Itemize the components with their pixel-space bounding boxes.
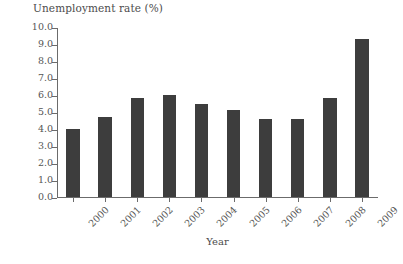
y-axis-tick-label: 8.0 — [38, 55, 53, 66]
x-axis-tick-label: 2006 — [279, 204, 304, 229]
x-axis-tick-group: 2000200120022003200420052006200720082009 — [57, 198, 378, 238]
bar — [227, 110, 240, 197]
y-axis-tick-label: 7.0 — [38, 72, 53, 83]
x-axis-tick-label: 2001 — [118, 204, 143, 229]
x-axis-tick-label: 2005 — [247, 204, 272, 229]
x-axis-tick-mark — [330, 198, 331, 202]
chart-figure: Unemployment rate (%) 0.01.02.03.04.05.0… — [0, 0, 403, 264]
bar — [195, 104, 208, 198]
y-axis-tick-label: 0.0 — [38, 191, 53, 202]
y-axis-line — [57, 28, 58, 198]
x-axis-tick-mark — [298, 198, 299, 202]
x-axis-tick-mark — [105, 198, 106, 202]
x-axis-label: Year — [57, 236, 378, 247]
y-axis-tick-label: 6.0 — [38, 89, 53, 100]
x-axis-tick-label: 2003 — [182, 204, 207, 229]
y-axis-tick-label: 2.0 — [38, 157, 53, 168]
bar — [259, 119, 272, 197]
y-axis-tick-label: 5.0 — [38, 106, 53, 117]
x-axis-tick-mark — [73, 198, 74, 202]
x-axis-tick-label: 2004 — [215, 204, 240, 229]
bar — [66, 129, 79, 197]
y-axis-tick-label: 10.0 — [32, 21, 53, 32]
x-axis-tick-mark — [201, 198, 202, 202]
x-axis-tick-label: 2000 — [86, 204, 111, 229]
bar — [131, 98, 144, 197]
x-axis-tick-label: 2008 — [343, 204, 368, 229]
bar — [355, 39, 368, 197]
plot-area: 0.01.02.03.04.05.06.07.08.09.010.0 — [57, 28, 378, 198]
bar — [323, 98, 336, 197]
y-axis-label: Unemployment rate (%) — [33, 2, 163, 14]
x-axis-tick-mark — [137, 198, 138, 202]
bar — [163, 95, 176, 197]
y-axis-tick-label: 9.0 — [38, 38, 53, 49]
x-axis-tick-label: 2002 — [150, 204, 175, 229]
bar — [291, 119, 304, 197]
y-axis-tick-label: 4.0 — [38, 123, 53, 134]
x-axis-tick-mark — [169, 198, 170, 202]
bar — [98, 117, 111, 197]
x-axis-tick-mark — [362, 198, 363, 202]
x-axis-tick-label: 2009 — [375, 204, 400, 229]
x-axis-tick-mark — [266, 198, 267, 202]
x-axis-tick-mark — [234, 198, 235, 202]
x-axis-tick-label: 2007 — [311, 204, 336, 229]
y-axis-tick-label: 1.0 — [38, 174, 53, 185]
y-axis-tick-label: 3.0 — [38, 140, 53, 151]
